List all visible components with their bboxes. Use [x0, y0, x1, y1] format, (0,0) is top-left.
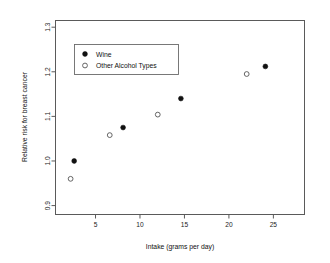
legend-label-wine: Wine — [96, 51, 112, 58]
legend-marker-other-icon — [83, 63, 88, 68]
y-tick-label: 1.1 — [44, 111, 51, 120]
y-tick-label: 0.9 — [44, 201, 51, 210]
x-tick-label: 10 — [136, 221, 144, 228]
x-tick-label: 5 — [94, 221, 98, 228]
data-point — [107, 133, 112, 138]
y-tick-label: 1.0 — [44, 156, 51, 165]
figure-background — [0, 0, 330, 263]
data-point — [178, 96, 183, 101]
y-tick-label: 1.3 — [44, 22, 51, 31]
data-point — [121, 125, 126, 130]
legend-label-other: Other Alcohol Types — [96, 62, 157, 70]
x-tick-label: 20 — [225, 221, 233, 228]
legend-frame — [75, 45, 179, 75]
y-tick-label: 1.2 — [44, 67, 51, 76]
x-tick-label: 25 — [270, 221, 278, 228]
data-point — [263, 64, 268, 69]
legend-marker-wine-icon — [83, 52, 88, 57]
data-point — [68, 176, 73, 181]
legend: Wine Other Alcohol Types — [75, 45, 179, 75]
plot-canvas: 0.91.01.11.21.3 510152025 Wine Other Alc… — [0, 0, 330, 263]
x-tick-label: 15 — [181, 221, 189, 228]
data-point — [72, 159, 77, 164]
scatter-plot-figure: 0.91.01.11.21.3 510152025 Wine Other Alc… — [0, 0, 330, 263]
data-point — [155, 112, 160, 117]
x-axis-title: Intake (grams per day) — [146, 243, 214, 251]
y-axis-title: Relative risk for breast cancer — [21, 71, 28, 162]
data-point — [244, 72, 249, 77]
